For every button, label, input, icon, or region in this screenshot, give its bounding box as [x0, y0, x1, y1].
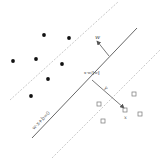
negative-class-point [138, 112, 142, 116]
hyperplane-label: w·x+b=0 [30, 110, 51, 131]
svm-diagram: w·x+b=0 w x·w/‖w‖ γ x [0, 0, 161, 163]
support-point-label: x [124, 114, 127, 120]
negative-class-point [123, 108, 127, 112]
negative-class-point [132, 92, 136, 96]
positive-class-point [34, 57, 38, 61]
negative-class-point [101, 119, 105, 123]
projection-label: x·w/‖w‖ [84, 70, 100, 75]
upper-margin-line [10, 2, 118, 100]
positive-class-point [60, 62, 64, 66]
lower-margin-line [52, 50, 160, 158]
positive-class-point [11, 59, 15, 63]
normal-vector-label: w [95, 33, 101, 40]
hyperplane-line [32, 28, 137, 138]
positive-class-point [42, 33, 46, 37]
positive-class-point [46, 77, 50, 81]
normal-vector-arrow [97, 41, 109, 56]
positive-class-point [67, 36, 71, 40]
positive-class-point [29, 94, 33, 98]
negative-class-point [97, 102, 101, 106]
